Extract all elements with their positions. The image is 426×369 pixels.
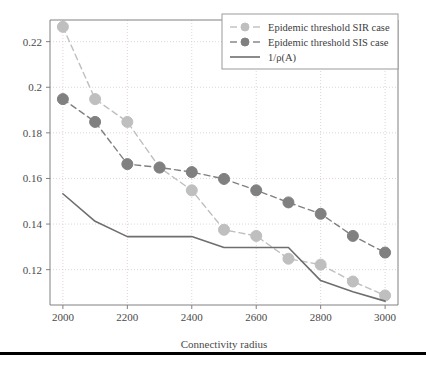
series-marker-1 (251, 185, 262, 196)
bottom-rule (0, 352, 426, 355)
legend-sample-marker-0 (241, 23, 249, 31)
series-marker-0 (219, 224, 230, 235)
y-tick-label: 0.2 (28, 81, 42, 93)
x-tick-label: 2800 (310, 311, 333, 323)
chart-legend[interactable]: Epidemic threshold SIR caseEpidemic thre… (222, 14, 398, 69)
series-marker-1 (122, 159, 133, 170)
series-marker-1 (90, 116, 101, 127)
series-marker-1 (315, 208, 326, 219)
x-tick-label: 2600 (245, 311, 268, 323)
x-tick-label: 2400 (181, 311, 204, 323)
y-tick-label: 0.12 (23, 264, 42, 276)
y-tick-label: 0.22 (23, 36, 42, 48)
legend-sample-marker-1 (241, 38, 249, 46)
x-axis-title: Connectivity radius (181, 338, 267, 350)
series-marker-0 (251, 230, 262, 241)
y-tick-label: 0.14 (23, 218, 43, 230)
series-marker-1 (57, 94, 68, 105)
series-marker-1 (380, 247, 391, 258)
series-marker-1 (347, 230, 358, 241)
y-tick-label: 0.18 (23, 127, 43, 139)
x-tick-label: 2000 (52, 311, 75, 323)
legend-label-2[interactable]: 1/ρ(A) (268, 52, 296, 64)
x-tick-label: 3000 (374, 311, 397, 323)
legend-label-0[interactable]: Epidemic threshold SIR case (268, 22, 390, 33)
y-tick-label: 0.16 (23, 172, 43, 184)
series-marker-0 (57, 21, 68, 32)
series-marker-0 (283, 253, 294, 264)
series-marker-1 (283, 197, 294, 208)
series-marker-1 (186, 167, 197, 178)
series-marker-0 (347, 276, 358, 287)
x-tick-label: 2200 (116, 311, 139, 323)
series-marker-0 (186, 185, 197, 196)
series-marker-1 (154, 162, 165, 173)
legend-label-1[interactable]: Epidemic threshold SIS case (268, 37, 389, 48)
series-marker-0 (122, 116, 133, 127)
series-marker-0 (315, 259, 326, 270)
series-marker-1 (219, 173, 230, 184)
chart-figure: 0.120.140.160.180.20.2220002200240026002… (0, 0, 426, 369)
epidemic-threshold-line-chart: 0.120.140.160.180.20.2220002200240026002… (0, 0, 426, 369)
series-marker-0 (90, 94, 101, 105)
